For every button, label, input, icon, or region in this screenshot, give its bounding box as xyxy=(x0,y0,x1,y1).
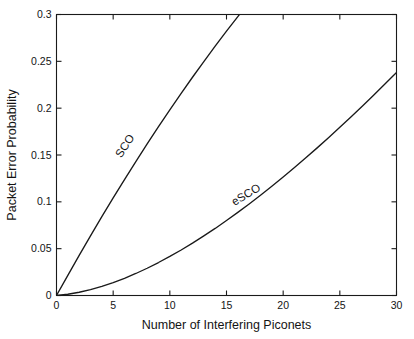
curve-label-esco: eSCO xyxy=(229,181,262,207)
curve-sco xyxy=(57,0,397,295)
y-tick-label: 0.1 xyxy=(37,195,52,207)
y-tick-label: 0.2 xyxy=(37,102,52,114)
x-axis-title: Number of Interfering Piconets xyxy=(142,318,312,332)
figure-canvas: 05101520253000.050.10.150.20.250.3Number… xyxy=(0,0,414,339)
x-tick-label: 25 xyxy=(334,299,346,311)
plot-box-frame xyxy=(57,15,397,296)
y-tick-label: 0.05 xyxy=(31,242,52,254)
y-tick-label: 0.25 xyxy=(31,55,52,67)
line-chart: 05101520253000.050.10.150.20.250.3Number… xyxy=(0,0,414,339)
x-tick-label: 0 xyxy=(54,299,60,311)
y-tick-label: 0 xyxy=(46,289,52,301)
y-tick-label: 0.15 xyxy=(31,149,52,161)
x-tick-label: 20 xyxy=(277,299,289,311)
y-axis-title: Packet Error Probability xyxy=(5,89,19,221)
y-tick-label: 0.3 xyxy=(37,8,52,20)
curve-label-sco: SCO xyxy=(113,132,137,159)
x-tick-label: 30 xyxy=(391,299,403,311)
x-tick-label: 15 xyxy=(221,299,233,311)
curve-esco xyxy=(57,72,397,295)
x-tick-label: 10 xyxy=(164,299,176,311)
x-tick-label: 5 xyxy=(110,299,116,311)
